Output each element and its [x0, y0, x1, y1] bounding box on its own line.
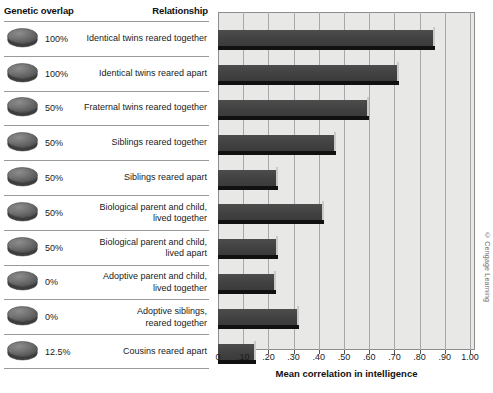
- table-row: 50%Fraternal twins reared together: [4, 91, 209, 126]
- bar: [218, 100, 369, 116]
- bar: [218, 65, 399, 81]
- table-row: 50%Biological parent and child, lived ap…: [4, 230, 209, 265]
- genetic-overlap-value: 50%: [45, 208, 63, 218]
- table-row: 50%Biological parent and child, lived to…: [4, 195, 209, 230]
- relationship-label: Fraternal twins reared together: [84, 103, 207, 115]
- copyright-credit: © Cengage Learning: [484, 232, 491, 302]
- x-axis-tick-label: .80: [413, 352, 426, 362]
- x-axis-tick-label: .60: [363, 352, 376, 362]
- relationship-label: Identical twins reared apart: [99, 68, 207, 80]
- genetic-overlap-value: 100%: [45, 69, 68, 79]
- bar-row: [218, 265, 470, 300]
- relationship-label: Identical twins reared together: [86, 33, 207, 45]
- table-row: 12.5%Cousins reared apart: [4, 334, 209, 369]
- table-row: 0%Adoptive siblings, reared together: [4, 299, 209, 334]
- genetic-overlap-coin-icon: [6, 236, 40, 260]
- genetic-overlap-coin-icon: [6, 166, 40, 190]
- genetic-overlap-value: 50%: [45, 103, 63, 113]
- genetic-overlap-coin-icon: [6, 340, 40, 364]
- x-axis-tick-label: .10: [237, 352, 250, 362]
- table-header-row: Genetic overlap Relationship: [4, 2, 209, 22]
- x-axis-tick-label: .40: [313, 352, 326, 362]
- table-row: 100%Identical twins reared apart: [4, 56, 209, 91]
- genetic-overlap-coin-icon: [6, 96, 40, 120]
- genetic-overlap-value: 0%: [45, 277, 58, 287]
- bar-row: [218, 125, 470, 160]
- table-row: 50%Siblings reared apart: [4, 160, 209, 195]
- bar: [218, 239, 278, 255]
- x-axis-tick-label: .50: [338, 352, 351, 362]
- relationship-table: Genetic overlap Relationship 100%Identic…: [0, 0, 213, 393]
- relationship-label: Cousins reared apart: [123, 346, 207, 358]
- table-row: 100%Identical twins reared together: [4, 21, 209, 56]
- bar-row: [218, 91, 470, 126]
- column-header-relationship: Relationship: [152, 5, 208, 16]
- x-axis-tick-label: .30: [287, 352, 300, 362]
- genetic-overlap-coin-icon: [6, 201, 40, 225]
- bar-row: [218, 21, 470, 56]
- x-axis-tick-label: 0: [215, 352, 220, 362]
- x-axis-tick-label: .70: [388, 352, 401, 362]
- genetic-overlap-coin-icon: [6, 131, 40, 155]
- bar: [218, 204, 324, 220]
- bar-row: [218, 195, 470, 230]
- x-axis-tick-label: .20: [262, 352, 275, 362]
- relationship-label: Siblings reared apart: [124, 172, 207, 184]
- bar-chart: 0.10.20.30.40.50.60.70.80.901.00 Mean co…: [213, 0, 493, 393]
- x-axis-title: Mean correlation in intelligence: [218, 368, 475, 379]
- genetic-overlap-coin-icon: [6, 27, 40, 51]
- genetic-overlap-value: 50%: [45, 243, 63, 253]
- x-axis-tick-label: 1.00: [461, 352, 479, 362]
- genetic-overlap-value: 100%: [45, 34, 68, 44]
- genetic-overlap-value: 50%: [45, 173, 63, 183]
- relationship-label: Biological parent and child, lived apart: [99, 236, 207, 259]
- genetic-overlap-coin-icon: [6, 305, 40, 329]
- bar-row: [218, 299, 470, 334]
- bar: [218, 274, 276, 290]
- genetic-overlap-value: 0%: [45, 312, 58, 322]
- x-axis-tick-label: .90: [439, 352, 452, 362]
- bar: [218, 135, 336, 151]
- genetic-overlap-value: 50%: [45, 138, 63, 148]
- relationship-label: Adoptive parent and child, lived togethe…: [103, 271, 207, 294]
- column-header-genetic-overlap: Genetic overlap: [4, 5, 74, 16]
- relationship-label: Siblings reared together: [111, 138, 207, 150]
- table-body: 100%Identical twins reared together100%I…: [4, 21, 209, 369]
- bar-row: [218, 160, 470, 195]
- genetic-overlap-coin-icon: [6, 62, 40, 86]
- bar: [218, 30, 435, 46]
- table-row: 50%Siblings reared together: [4, 125, 209, 160]
- bar-row: [218, 230, 470, 265]
- genetic-overlap-value: 12.5%: [45, 347, 71, 357]
- bar-row: [218, 56, 470, 91]
- table-row: 0%Adoptive parent and child, lived toget…: [4, 265, 209, 300]
- bar: [218, 309, 299, 325]
- genetic-overlap-coin-icon: [6, 270, 40, 294]
- genetic-overlap-intelligence-figure: Genetic overlap Relationship 100%Identic…: [0, 0, 493, 393]
- bar: [218, 170, 278, 186]
- gridline: [470, 12, 471, 350]
- relationship-label: Biological parent and child, lived toget…: [99, 201, 207, 224]
- relationship-label: Adoptive siblings, reared together: [137, 306, 207, 329]
